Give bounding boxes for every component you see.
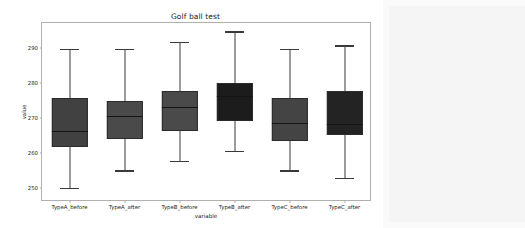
screenshot-root: Golf ball test 250260270280290TypeA_befo…: [0, 0, 525, 228]
cap-lower: [280, 170, 300, 171]
whisker-upper: [344, 45, 345, 90]
whisker-upper: [179, 42, 180, 91]
whisker-upper: [289, 49, 290, 98]
box-iqr: [51, 98, 87, 147]
x-tick-label-TypeA_after: TypeA_after: [109, 204, 141, 210]
cap-lower: [170, 161, 190, 162]
cap-upper: [280, 49, 300, 50]
x-tick-label-TypeB_after: TypeB_after: [219, 204, 251, 210]
box-iqr: [271, 98, 307, 141]
whisker-lower: [124, 139, 125, 170]
x-tick-mark: [69, 200, 70, 203]
matplotlib-figure: Golf ball test 250260270280290TypeA_befo…: [8, 6, 383, 222]
median-line: [51, 131, 87, 133]
x-tick-label-TypeC_before: TypeC_before: [271, 204, 307, 210]
median-line: [216, 96, 252, 98]
y-axis-label: value: [21, 104, 27, 119]
cap-lower: [115, 170, 135, 171]
whisker-lower: [344, 135, 345, 178]
x-axis-label: variable: [42, 213, 370, 219]
x-tick-mark: [124, 200, 125, 203]
cap-upper: [115, 49, 135, 50]
box-iqr: [326, 91, 362, 135]
plot-inner: 250260270280290TypeA_beforeTypeA_afterTy…: [42, 23, 370, 200]
chart-title: Golf ball test: [8, 12, 383, 21]
y-tick-label: 270: [28, 115, 42, 121]
cap-upper: [170, 42, 190, 43]
x-tick-label-TypeA_before: TypeA_before: [51, 204, 87, 210]
median-line: [106, 116, 142, 118]
whisker-upper: [124, 49, 125, 101]
y-tick-label: 290: [28, 45, 42, 51]
cap-lower: [225, 151, 245, 152]
box-iqr: [106, 101, 142, 140]
x-tick-mark: [234, 200, 235, 203]
cap-lower: [335, 178, 355, 179]
whisker-lower: [179, 131, 180, 161]
whisker-lower: [234, 121, 235, 151]
y-tick-label: 260: [28, 150, 42, 156]
y-tick-label: 250: [28, 185, 42, 191]
x-tick-mark: [344, 200, 345, 203]
median-line: [161, 107, 197, 109]
cap-upper: [225, 31, 245, 32]
cap-lower: [60, 188, 80, 189]
cap-upper: [60, 49, 80, 50]
right-background-panel-inner: [389, 6, 525, 222]
box-iqr: [161, 91, 197, 131]
median-line: [326, 124, 362, 126]
median-line: [271, 123, 307, 125]
x-tick-label-TypeC_after: TypeC_after: [329, 204, 361, 210]
plot-axes: 250260270280290TypeA_beforeTypeA_afterTy…: [41, 22, 371, 201]
x-tick-mark: [289, 200, 290, 203]
y-tick-label: 280: [28, 80, 42, 86]
box-iqr: [216, 83, 252, 121]
whisker-lower: [289, 141, 290, 170]
x-tick-mark: [179, 200, 180, 203]
whisker-upper: [234, 31, 235, 82]
cap-upper: [335, 45, 355, 46]
whisker-lower: [69, 147, 70, 188]
whisker-upper: [69, 49, 70, 98]
x-tick-label-TypeB_before: TypeB_before: [161, 204, 197, 210]
